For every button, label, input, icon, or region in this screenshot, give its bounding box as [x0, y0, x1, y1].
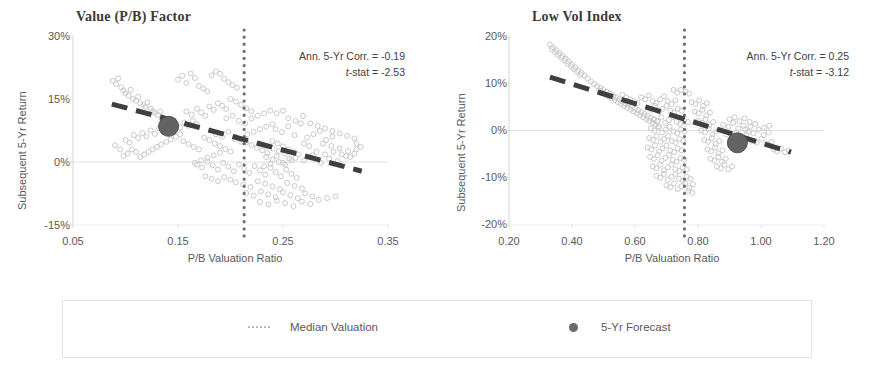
legend-label-median-valuation: Median Valuation [290, 321, 378, 333]
chart-legend: Median Valuation 5-Yr Forecast [62, 300, 812, 358]
scatter-plot-right [437, 0, 873, 285]
chart-panel-low-vol-index: Low Vol Index Subsequent 5-Yr Return P/B… [437, 0, 873, 285]
figure-root: Value (P/B) Factor Subsequent 5-Yr Retur… [0, 0, 873, 378]
scatter-plot-left [0, 0, 437, 285]
dotted-line-marker [241, 325, 281, 329]
legend-label-5yr-forecast: 5-Yr Forecast [601, 321, 671, 333]
legend-item-5yr-forecast[interactable]: 5-Yr Forecast [569, 321, 671, 333]
filled-circle-marker [569, 323, 578, 332]
chart-panel-value-pb-factor: Value (P/B) Factor Subsequent 5-Yr Retur… [0, 0, 437, 285]
legend-inner: Median Valuation 5-Yr Forecast [63, 301, 811, 357]
legend-item-median-valuation[interactable]: Median Valuation [241, 321, 378, 333]
